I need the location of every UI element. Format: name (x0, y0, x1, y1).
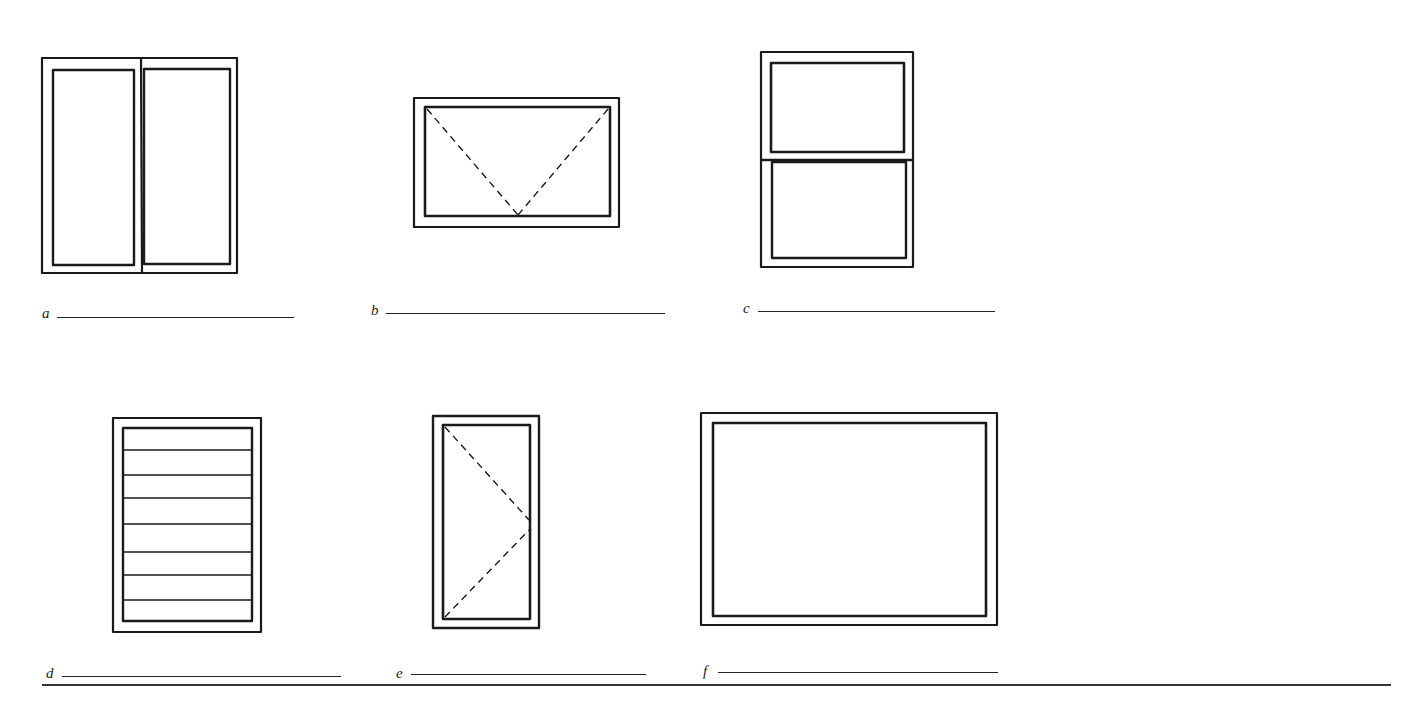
answer-blank-d[interactable] (62, 676, 341, 677)
answer-blank-f[interactable] (718, 672, 998, 673)
answer-blank-b[interactable] (386, 313, 665, 314)
left-sash (53, 70, 134, 265)
lower-sash (772, 162, 906, 258)
sash-divider (141, 58, 142, 273)
outer-frame (414, 98, 619, 227)
figure-bottom-rule (42, 684, 1391, 686)
outer-frame (701, 413, 997, 625)
window-diagrams (0, 0, 1414, 710)
swing-line-right (518, 109, 608, 215)
inner-frame (713, 423, 986, 616)
sash (425, 107, 610, 216)
answer-blank-a[interactable] (57, 317, 294, 318)
item-label-f: f (703, 664, 707, 679)
outer-frame (433, 416, 539, 628)
item-label-a: a (42, 306, 50, 321)
window-drawing-d (113, 418, 261, 632)
right-sash (144, 69, 230, 264)
window-drawing-a (42, 58, 237, 273)
answer-blank-c[interactable] (758, 311, 995, 312)
swing-line-lower (445, 530, 529, 617)
answer-blank-e[interactable] (411, 674, 646, 675)
item-label-b: b (371, 303, 379, 318)
window-drawing-e (433, 416, 539, 628)
item-label-d: d (46, 666, 54, 681)
sash (443, 425, 530, 619)
item-label-e: e (396, 666, 403, 681)
upper-sash (771, 63, 904, 152)
window-drawing-f (701, 413, 997, 625)
swing-line-upper (445, 427, 529, 520)
outer-frame (42, 58, 237, 273)
item-label-c: c (743, 301, 750, 316)
window-drawing-b (414, 98, 619, 227)
swing-line-left (427, 109, 518, 215)
window-drawing-c (761, 52, 913, 267)
